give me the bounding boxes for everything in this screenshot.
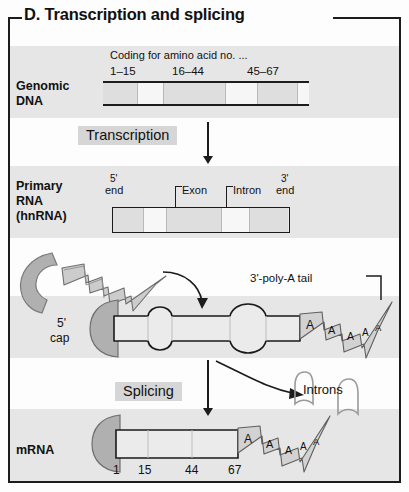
- five-prime-cap-line2: cap: [50, 331, 69, 345]
- polya-letter-mrna-2: A: [266, 438, 273, 450]
- capped-rna-backbone: [114, 304, 300, 353]
- mrna-backbone: [116, 430, 238, 458]
- capping-illustration: [0, 0, 409, 492]
- five-prime-cap-line1: 5': [57, 316, 66, 330]
- mrna-position-tick-67: 67: [228, 463, 241, 477]
- mrna-position-tick-44: 44: [185, 463, 198, 477]
- introns-label: Introns: [303, 382, 343, 397]
- polya-letter-capped-1: A: [306, 318, 314, 332]
- polya-tail-bracket: [366, 276, 381, 300]
- splicing-arrow-head: [203, 408, 213, 416]
- polya-letter-capped-4: A: [362, 327, 369, 338]
- splicing-curved-arrow: [216, 361, 296, 394]
- mrna-position-tick-1: 1: [113, 463, 120, 477]
- mrna-position-tick-15: 15: [138, 463, 151, 477]
- polya-letter-mrna-5: A: [313, 436, 319, 447]
- capping-curved-arrow: [163, 272, 202, 301]
- polya-letter-mrna-1: A: [244, 432, 252, 446]
- capping-curved-arrow-head: [197, 298, 208, 309]
- polya-letter-mrna-3: A: [285, 444, 292, 456]
- cap-crescent-icon: [21, 253, 57, 313]
- splicing-arrow-shaft: [207, 360, 209, 410]
- polya-letter-capped-5: A: [375, 322, 381, 333]
- splicing-label: Splicing: [115, 382, 182, 401]
- figure-panel: D. Transcription and splicing Coding for…: [0, 0, 409, 492]
- polya-letter-capped-2: A: [328, 324, 335, 336]
- polya-letter-capped-3: A: [347, 330, 354, 342]
- splicing-curved-arrow-head: [289, 388, 304, 399]
- row-label-mrna: mRNA: [16, 443, 54, 457]
- polya-tail-label: 3'-poly-A tail: [250, 272, 312, 284]
- polya-letter-mrna-4: A: [300, 441, 307, 452]
